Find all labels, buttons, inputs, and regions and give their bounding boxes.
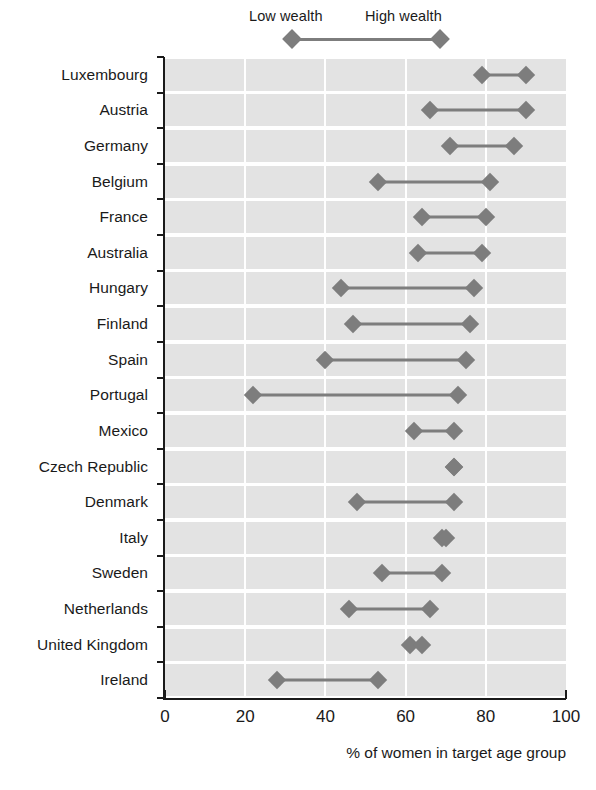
y-axis-tick — [157, 341, 164, 343]
y-axis-tick — [157, 92, 164, 94]
row-band — [165, 237, 566, 269]
category-label: Mexico — [99, 422, 148, 440]
category-label: Germany — [84, 137, 148, 155]
y-axis-tick — [157, 448, 164, 450]
y-axis-tick — [157, 377, 164, 379]
legend-label-high-wealth: High wealth — [365, 8, 442, 24]
legend-diamond-low-icon — [282, 29, 302, 49]
y-axis-tick — [157, 305, 164, 307]
y-axis-tick — [157, 234, 164, 236]
vertical-gridline — [405, 57, 407, 698]
legend-diamond-high-icon — [430, 29, 450, 49]
category-label: Sweden — [92, 564, 148, 582]
dumbbell-connector-line — [341, 287, 473, 290]
dumbbell-connector-line — [378, 180, 490, 183]
dumbbell-connector-line — [430, 109, 526, 112]
y-axis-tick — [157, 590, 164, 592]
x-axis-tick-label: 80 — [476, 707, 495, 727]
x-axis-tick-label: 40 — [316, 707, 335, 727]
y-axis-tick — [157, 163, 164, 165]
plot-area — [165, 57, 566, 698]
chart-legend: Low wealth High wealth — [0, 0, 596, 55]
x-axis-title: % of women in target age group — [346, 744, 566, 762]
x-axis-tick — [565, 690, 567, 699]
x-axis-tick-label: 60 — [396, 707, 415, 727]
category-label: Netherlands — [64, 600, 148, 618]
dumbbell-connector-line — [277, 679, 377, 682]
dumbbell-connector-line — [349, 607, 429, 610]
category-label: Australia — [87, 244, 148, 262]
x-axis-tick-label: 20 — [236, 707, 255, 727]
category-label: Italy — [119, 529, 148, 547]
row-band — [165, 451, 566, 483]
category-label: France — [99, 208, 148, 226]
y-axis-tick — [157, 519, 164, 521]
category-label: Hungary — [89, 279, 148, 297]
category-label: Luxembourg — [61, 66, 148, 84]
category-label: Denmark — [85, 493, 148, 511]
dumbbell-connector-line — [357, 501, 453, 504]
category-label: Finland — [97, 315, 148, 333]
y-axis-tick — [157, 198, 164, 200]
category-label: Ireland — [100, 671, 148, 689]
legend-label-low-wealth: Low wealth — [249, 8, 323, 24]
category-label: Belgium — [92, 173, 148, 191]
row-band — [165, 629, 566, 661]
y-axis-tick — [157, 626, 164, 628]
vertical-gridline — [244, 57, 246, 698]
category-label: Czech Republic — [39, 458, 148, 476]
row-band — [165, 415, 566, 447]
row-band — [165, 201, 566, 233]
row-band — [165, 522, 566, 554]
y-axis-tick — [157, 56, 164, 58]
y-axis-tick — [157, 697, 164, 699]
y-axis-tick — [157, 127, 164, 129]
vertical-gridline — [324, 57, 326, 698]
dumbbell-connector-line — [325, 358, 465, 361]
x-axis-spine — [163, 698, 566, 700]
y-axis-tick — [157, 483, 164, 485]
category-label: Portugal — [90, 386, 148, 404]
dumbbell-chart-figure: Low wealth High wealth % of women in tar… — [0, 0, 596, 790]
dumbbell-connector-line — [353, 323, 469, 326]
vertical-gridline — [485, 57, 487, 698]
x-axis-tick-label: 100 — [552, 707, 580, 727]
y-axis-tick — [157, 555, 164, 557]
category-label: Austria — [99, 101, 148, 119]
y-axis-tick — [157, 661, 164, 663]
y-axis-tick — [157, 412, 164, 414]
legend-connector-line — [292, 38, 440, 41]
row-band — [165, 166, 566, 198]
row-band — [165, 557, 566, 589]
category-label: United Kingdom — [37, 636, 148, 654]
dumbbell-connector-line — [253, 394, 458, 397]
x-axis-tick-label: 0 — [160, 707, 169, 727]
category-label: Spain — [108, 351, 148, 369]
x-axis-tick — [164, 690, 166, 699]
y-axis-tick — [157, 270, 164, 272]
